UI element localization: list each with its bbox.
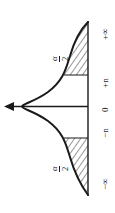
axis-tick-label-plus-infinity: +∞ bbox=[101, 28, 110, 40]
mean-arrow bbox=[4, 102, 88, 111]
axis-tick-label-minus-n: −n bbox=[101, 128, 110, 138]
upper-region-hatching bbox=[60, 20, 90, 77]
upper-critical-region bbox=[60, 20, 90, 77]
mean-arrow-head bbox=[4, 102, 14, 111]
lower-region-label: α 2 bbox=[50, 166, 69, 172]
axis-tick-label-minus-infinity: −∞ bbox=[101, 178, 110, 190]
distribution-figure: +∞ +n 0 −n −∞ α 2 α 2 bbox=[0, 0, 115, 213]
axis-tick-label-zero: 0 bbox=[101, 107, 110, 112]
axis-tick-label-plus-n: +n bbox=[101, 78, 110, 88]
upper-region-label: α 2 bbox=[50, 56, 69, 62]
upper-region-label-denominator: 2 bbox=[60, 56, 69, 62]
distribution-plot bbox=[0, 0, 115, 213]
lower-region-label-numerator: α bbox=[50, 166, 60, 172]
lower-region-label-denominator: 2 bbox=[60, 166, 69, 172]
upper-region-label-numerator: α bbox=[50, 56, 60, 62]
